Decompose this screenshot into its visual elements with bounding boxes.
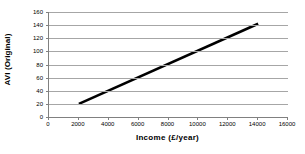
gridline-horizontal	[49, 38, 288, 39]
y-axis-tickmark	[46, 12, 49, 13]
gridline-horizontal	[49, 51, 288, 52]
x-axis-title: Income (£/year)	[48, 133, 287, 142]
y-axis-title-label: AVI (Original)	[4, 33, 13, 85]
gridline-horizontal	[49, 25, 288, 26]
x-axis-tickmark	[197, 117, 198, 120]
gridline-horizontal	[49, 12, 288, 13]
y-axis-tick-label: 40	[15, 88, 43, 94]
y-axis-tickmark	[46, 38, 49, 39]
y-axis-tick-label: 60	[15, 75, 43, 81]
y-axis-tick-label: 120	[15, 35, 43, 41]
y-axis-tick-label: 100	[15, 48, 43, 54]
x-axis-tickmark	[108, 117, 109, 120]
y-axis-tickmark	[46, 65, 49, 66]
x-axis-tickmark	[48, 117, 49, 120]
gridline-horizontal	[49, 104, 288, 105]
gridline-horizontal	[49, 65, 288, 66]
x-axis-tick-label: 0	[46, 121, 49, 127]
gridline-horizontal	[49, 78, 288, 79]
x-axis-tickmark	[168, 117, 169, 120]
y-axis-tick-label: 160	[15, 9, 43, 15]
x-axis-tick-label: 12000	[219, 121, 236, 127]
plot-area	[48, 12, 288, 118]
x-axis-tick-label: 8000	[161, 121, 174, 127]
x-axis-tickmark	[287, 117, 288, 120]
y-axis-tick-labels: 020406080100120140160	[16, 12, 46, 117]
x-axis-tickmark	[78, 117, 79, 120]
y-axis-tickmark	[46, 91, 49, 92]
y-axis-tick-label: 0	[15, 114, 43, 120]
x-axis-tick-label: 6000	[131, 121, 144, 127]
x-axis-tickmark	[227, 117, 228, 120]
x-axis-tick-label: 10000	[189, 121, 206, 127]
y-axis-tick-label: 20	[15, 101, 43, 107]
x-axis-tick-label: 4000	[101, 121, 114, 127]
gridline-horizontal	[49, 91, 288, 92]
x-axis-tick-label: 2000	[71, 121, 84, 127]
y-axis-tick-label: 80	[15, 62, 43, 68]
y-axis-title: AVI (Original)	[0, 0, 16, 118]
x-axis-tick-labels: 0200040006000800010000120001400016000	[48, 117, 287, 129]
y-axis-tickmark	[46, 51, 49, 52]
chart-container: AVI (Original) 020406080100120140160 020…	[0, 0, 305, 154]
y-axis-tickmark	[46, 104, 49, 105]
x-axis-tick-label: 16000	[279, 121, 296, 127]
x-axis-tickmark	[257, 117, 258, 120]
y-axis-tickmark	[46, 25, 49, 26]
y-axis-tickmark	[46, 78, 49, 79]
y-axis-tick-label: 140	[15, 22, 43, 28]
x-axis-tick-label: 14000	[249, 121, 266, 127]
x-axis-tickmark	[138, 117, 139, 120]
